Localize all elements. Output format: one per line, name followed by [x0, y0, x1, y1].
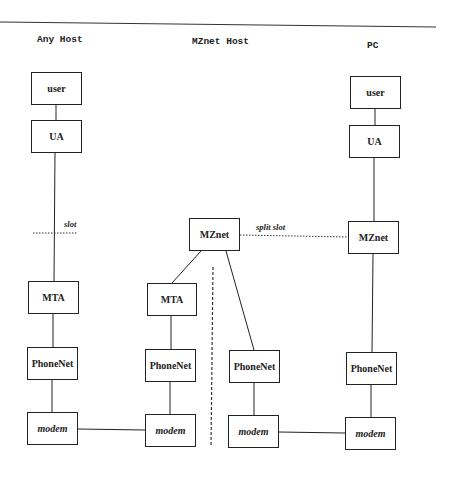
label-slot: slot [64, 219, 76, 229]
node-mz-modem-left: modem [145, 414, 196, 447]
node-any-phonenet: PhoneNet [27, 347, 78, 380]
column-header-mznet-host: MZnet Host [192, 36, 249, 47]
label-split-slot: split slot [256, 222, 285, 232]
column-header-any-host: Any Host [37, 34, 83, 45]
edge-mz-modem-pc-modem [279, 432, 345, 433]
node-mz-mta: MTA [147, 283, 197, 316]
edge-any-ua-mta [54, 152, 55, 281]
top-rule [0, 22, 436, 27]
node-any-user: user [31, 72, 82, 105]
node-pc-mznet: MZnet [348, 221, 399, 254]
node-mz-modem-right: modem [228, 415, 279, 448]
node-pc-ua: UA [349, 125, 400, 158]
mznet-host-separator [211, 267, 213, 447]
edge-mznet-mta [172, 251, 201, 283]
node-pc-modem: modem [345, 417, 396, 450]
edge-mznet-phonenet-right [226, 251, 254, 350]
node-any-mta: MTA [28, 281, 79, 314]
node-mz-phonenet-right: PhoneNet [229, 350, 280, 383]
edge-pc-mznet-phonenet [372, 254, 373, 352]
node-pc-phonenet: PhoneNet [346, 352, 397, 385]
edge-any-modem-mz-modem [78, 429, 145, 430]
node-mz-phonenet-left: PhoneNet [145, 349, 196, 382]
node-any-ua: UA [31, 120, 82, 153]
node-mz-mznet: MZnet [189, 218, 240, 251]
node-pc-user: user [350, 76, 401, 109]
split-slot-dotted-line [240, 235, 348, 237]
node-any-modem: modem [27, 412, 78, 445]
column-header-pc: PC [367, 40, 378, 51]
